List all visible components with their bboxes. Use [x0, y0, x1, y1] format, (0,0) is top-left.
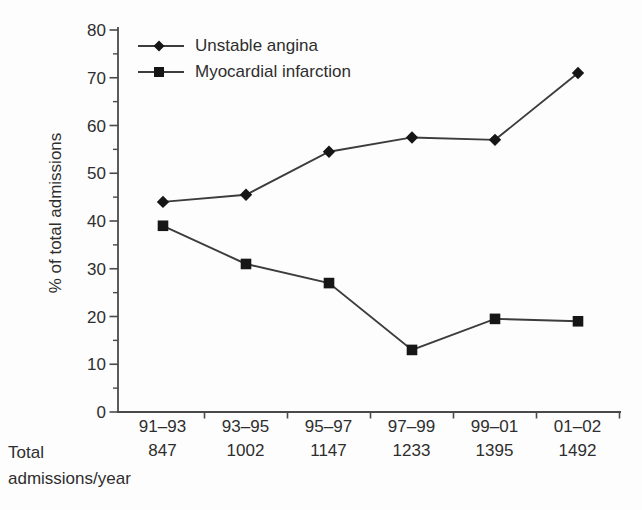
x-tick-label: 95–97 — [287, 417, 370, 437]
data-point-square-myocardial-infarction — [573, 316, 584, 327]
y-tick-label: 30 — [87, 260, 106, 279]
data-point-square-myocardial-infarction — [158, 220, 169, 231]
square-marker-icon — [138, 65, 184, 79]
total-admissions-value: 1233 — [370, 441, 453, 461]
y-tick-label: 0 — [97, 403, 106, 422]
y-tick-label: 70 — [87, 69, 106, 88]
data-point-diamond-unstable-angina — [240, 189, 252, 201]
total-admissions-label-line2: admissions/year — [8, 469, 131, 489]
legend-item-unstable-angina: Unstable angina — [138, 33, 351, 59]
x-tick-label: 91–93 — [121, 417, 204, 437]
data-point-diamond-unstable-angina — [323, 146, 335, 158]
data-point-square-myocardial-infarction — [241, 259, 252, 270]
data-point-diamond-unstable-angina — [157, 196, 169, 208]
data-point-square-myocardial-infarction — [407, 345, 418, 356]
total-admissions-value: 1147 — [287, 441, 370, 461]
y-tick-label: 10 — [87, 355, 106, 374]
x-tick-label: 97–99 — [370, 417, 453, 437]
total-admissions-label-line1: Total — [8, 443, 44, 463]
x-tick-label: 99–01 — [453, 417, 536, 437]
total-admissions-value: 1492 — [536, 441, 619, 461]
y-tick-label: 60 — [87, 117, 106, 136]
x-tick-label: 01–02 — [536, 417, 619, 437]
y-tick-label: 50 — [87, 164, 106, 183]
total-admissions-value: 1002 — [204, 441, 287, 461]
y-axis-title: % of total admissions — [46, 133, 66, 294]
x-tick-label: 93–95 — [204, 417, 287, 437]
total-admissions-value: 847 — [121, 441, 204, 461]
y-tick-label: 20 — [87, 308, 106, 327]
legend: Unstable angina Myocardial infarction — [138, 33, 351, 85]
data-point-square-myocardial-infarction — [490, 314, 501, 325]
chart-figure: 01020304050607080 % of total admissions … — [0, 0, 642, 510]
x-axis-tick-labels: 91–9393–9595–9797–9999–0101–02 — [121, 417, 619, 437]
total-admissions-values: 84710021147123313951492 — [121, 441, 619, 461]
legend-label-unstable-angina: Unstable angina — [195, 36, 318, 56]
legend-item-myocardial-infarction: Myocardial infarction — [138, 59, 351, 85]
y-tick-label: 80 — [87, 21, 106, 40]
series-line-myocardial-infarction — [163, 226, 578, 350]
series-line-unstable-angina — [163, 73, 578, 202]
diamond-marker-icon — [138, 39, 184, 53]
y-tick-label: 40 — [87, 212, 106, 231]
total-admissions-value: 1395 — [453, 441, 536, 461]
data-point-square-myocardial-infarction — [324, 278, 335, 289]
data-point-diamond-unstable-angina — [406, 131, 418, 143]
legend-label-myocardial-infarction: Myocardial infarction — [195, 62, 351, 82]
